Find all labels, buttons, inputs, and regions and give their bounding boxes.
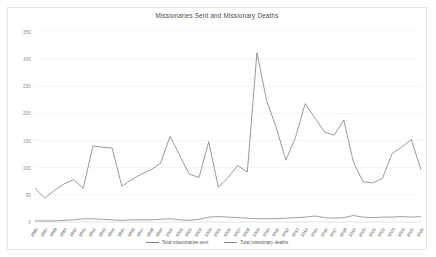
y-tick-label: 250 [13, 84, 31, 89]
gridlines-group [35, 32, 421, 222]
y-tick-label: 300 [13, 57, 31, 62]
y-tick-label: 200 [13, 111, 31, 116]
legend-label-sent: Total missionaries sent [162, 240, 208, 245]
series-lines-group [35, 53, 421, 221]
legend-label-deaths: Total missionary deaths [240, 240, 288, 245]
legend-item-deaths[interactable]: Total missionary deaths [224, 240, 288, 245]
legend-swatch-deaths [224, 242, 237, 243]
plot-area: 050100150200250300350 188618871888188918… [8, 8, 428, 251]
y-tick-label: 100 [13, 165, 31, 170]
y-tick-label: 50 [13, 192, 31, 197]
y-tick-label: 0 [13, 220, 31, 225]
legend-item-sent[interactable]: Total missionaries sent [146, 240, 208, 245]
chart-container: Missionaries Sent and Missionary Deaths … [7, 7, 427, 250]
series-line-deaths [35, 215, 421, 220]
line-chart-svg [8, 8, 428, 251]
y-tick-label: 150 [13, 138, 31, 143]
series-line-sent [35, 53, 421, 198]
chart-legend: Total missionaries sent Total missionary… [8, 240, 426, 245]
y-tick-label: 350 [13, 30, 31, 35]
legend-swatch-sent [146, 242, 159, 243]
